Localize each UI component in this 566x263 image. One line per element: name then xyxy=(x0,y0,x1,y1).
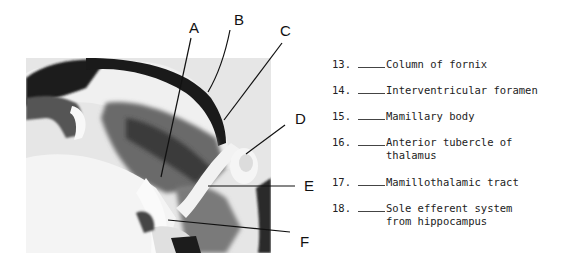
question-text-line2: thalamus xyxy=(332,149,512,162)
answer-blank[interactable] xyxy=(358,58,385,68)
question-number: 16. xyxy=(332,136,358,149)
answer-blank[interactable] xyxy=(358,202,385,212)
question-number: 15. xyxy=(332,110,358,123)
answer-blank[interactable] xyxy=(358,84,385,94)
answer-blank[interactable] xyxy=(358,110,385,120)
question-text: Sole efferent system xyxy=(386,202,512,215)
question-number: 13. xyxy=(332,58,358,71)
question-text: Anterior tubercle of xyxy=(386,136,512,149)
question-number: 18. xyxy=(332,202,358,215)
answer-blank[interactable] xyxy=(358,136,385,146)
answer-blank[interactable] xyxy=(358,176,385,186)
question-item-18: 18.Sole efferent system from hippocampus xyxy=(332,202,512,228)
question-item-14: 14.Interventricular foramen xyxy=(332,84,538,97)
question-item-16: 16.Anterior tubercle of thalamus xyxy=(332,136,512,162)
figure-label-b: B xyxy=(234,11,244,28)
question-text: Mamillothalamic tract xyxy=(386,176,519,189)
figure-label-e: E xyxy=(304,177,314,194)
question-number: 17. xyxy=(332,176,358,189)
question-item-13: 13.Column of fornix xyxy=(332,58,487,71)
figure-label-c: C xyxy=(280,22,291,39)
figure-label-d: D xyxy=(295,110,306,127)
question-text: Column of fornix xyxy=(386,58,487,71)
question-text-line2: from hippocampus xyxy=(332,215,512,228)
question-number: 14. xyxy=(332,84,358,97)
question-text: Mamillary body xyxy=(386,110,475,123)
brain-dissection-photo xyxy=(26,58,271,253)
figure-label-a: A xyxy=(189,19,199,36)
figure-label-f: F xyxy=(300,233,309,250)
question-item-15: 15.Mamillary body xyxy=(332,110,475,123)
question-text: Interventricular foramen xyxy=(386,84,538,97)
question-item-17: 17.Mamillothalamic tract xyxy=(332,176,519,189)
